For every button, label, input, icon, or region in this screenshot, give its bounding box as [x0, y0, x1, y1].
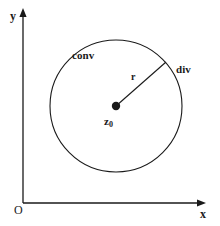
x-axis — [23, 199, 206, 206]
convergence-circle-figure: y x O conv div r z0 — [0, 0, 220, 226]
y-axis-arrowhead-icon — [19, 8, 26, 17]
divergence-region-label: div — [176, 64, 191, 75]
y-axis — [19, 8, 26, 203]
radius-label: r — [131, 72, 135, 82]
x-axis-arrowhead-icon — [197, 199, 206, 206]
radius-line — [116, 62, 166, 106]
y-axis-label: y — [10, 10, 16, 22]
convergence-region-label: conv — [72, 50, 94, 61]
center-point-dot — [112, 102, 120, 110]
origin-label: O — [14, 204, 23, 216]
center-point-label-subscript: 0 — [109, 120, 113, 129]
figure-canvas — [0, 0, 220, 226]
x-axis-label: x — [200, 208, 206, 220]
center-point-label: z0 — [104, 116, 113, 127]
